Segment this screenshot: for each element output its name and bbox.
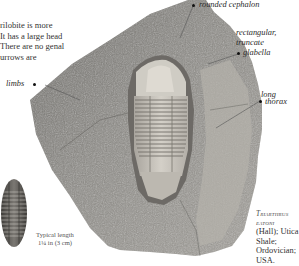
intro-line: urrows are — [0, 52, 90, 63]
glabella-dot-marker — [237, 52, 240, 55]
specimen-caption: Triarthrus eatoni (Hall); Utica Shale; O… — [256, 210, 299, 266]
limbs-label: limbs — [6, 79, 24, 88]
thorax-label-line2: thorax — [265, 97, 287, 106]
cephalon-dot-marker — [192, 4, 195, 7]
caption-author-formation: (Hall); Utica — [256, 227, 299, 237]
glabella-label-line1: rectangular, — [236, 28, 276, 37]
typical-length-value: 1¼ in (3 cm) — [30, 239, 80, 247]
trilobite-fossil — [128, 55, 194, 205]
caption-location: USA. — [256, 256, 299, 266]
glabella-label-line2: truncate — [236, 38, 264, 47]
limbs-dot-marker — [33, 83, 36, 86]
intro-line: rilobite is more — [0, 20, 90, 31]
thorax-dot-marker — [259, 100, 262, 103]
cephalon-label: rounded cephalon — [199, 0, 259, 9]
intro-line: It has a large head — [0, 31, 90, 42]
glabella-label-line3: glabella — [243, 48, 270, 57]
intro-line: There are no genal — [0, 41, 90, 52]
intro-paragraph: rilobite is more It has a large head The… — [0, 20, 90, 62]
caption-formation: Shale; — [256, 237, 299, 247]
species-name-epithet: eatoni — [256, 219, 299, 228]
trilobite-reconstruction-drawing — [1, 179, 27, 247]
species-name-genus: Triarthrus — [256, 210, 299, 219]
typical-length-note: Typical length 1¼ in (3 cm) — [30, 231, 80, 247]
caption-period: Ordovician; — [256, 246, 299, 256]
typical-length-label: Typical length — [30, 231, 80, 239]
